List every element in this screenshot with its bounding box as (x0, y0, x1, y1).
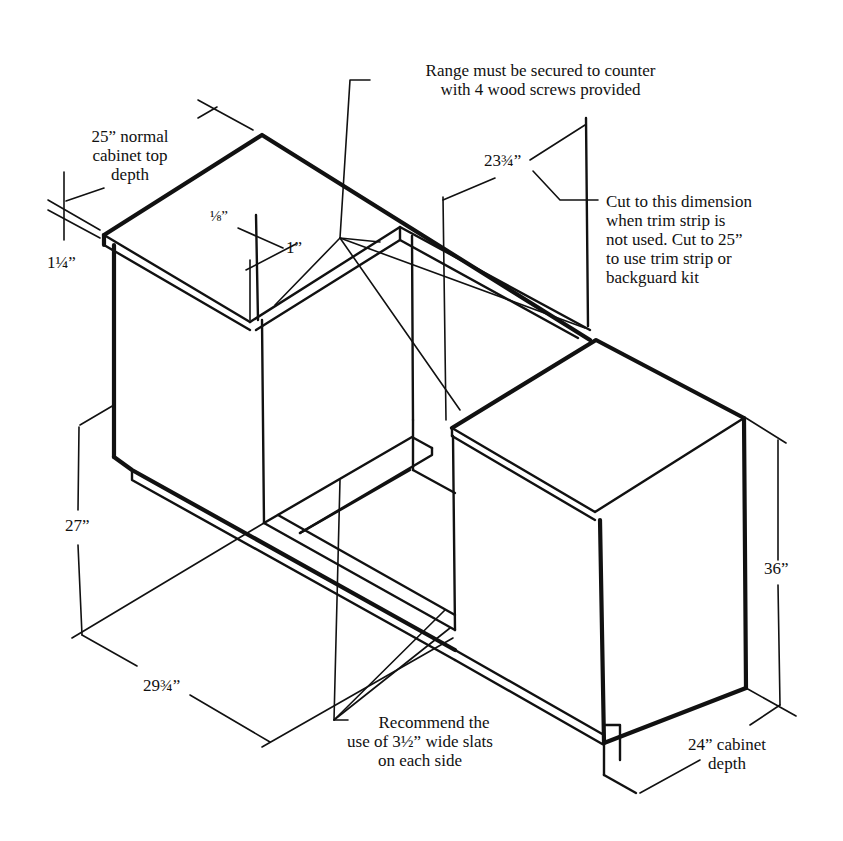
cut-dimension-label: 23¾” (484, 151, 521, 170)
cut-note: Cut to this dimension when trim strip is… (606, 192, 752, 287)
slats-note-line-3: on each side (320, 751, 520, 770)
height-36-label: 36” (764, 559, 789, 578)
slats-note: Recommend the use of 3½” wide slats on e… (320, 713, 520, 770)
top-depth-line-2: cabinet top (70, 146, 190, 165)
range-cutout-diagram: Range must be secured to counter with 4 … (0, 0, 843, 841)
cabinet-depth-label: 24” cabinet depth (672, 735, 782, 773)
top-note-line-2: with 4 wood screws provided (368, 80, 713, 99)
cut-note-line-2: when trim strip is (606, 211, 752, 230)
one-inch-label: 1” (286, 238, 302, 257)
height-27-label: 27” (65, 516, 90, 535)
right-countertop-edges (452, 340, 744, 428)
cabinet-depth-line-1: 24” cabinet (672, 735, 782, 754)
top-thickness-label: 1¼” (47, 253, 76, 272)
top-depth-label: 25” normal cabinet top depth (70, 127, 190, 184)
top-note: Range must be secured to counter with 4 … (368, 61, 713, 99)
cut-note-line-1: Cut to this dimension (606, 192, 752, 211)
cut-note-line-4: to use trim strip or (606, 249, 752, 268)
top-depth-line-3: depth (70, 165, 190, 184)
eighth-inch-label: ⅛” (210, 207, 228, 226)
width-29-75-label: 29¾” (143, 676, 180, 695)
slats-note-line-2: use of 3½” wide slats (320, 732, 520, 751)
slats-note-line-1: Recommend the (320, 713, 520, 732)
cabinet-depth-line-2: depth (672, 754, 782, 773)
cut-note-line-3: not used. Cut to 25” (606, 230, 752, 249)
top-note-line-1: Range must be secured to counter (368, 61, 713, 80)
cut-note-line-5: backguard kit (606, 268, 752, 287)
top-depth-line-1: 25” normal (70, 127, 190, 146)
